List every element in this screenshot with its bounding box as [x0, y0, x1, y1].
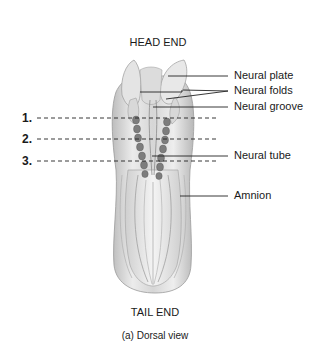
section-number-3: 3. [22, 155, 32, 167]
tail-end-label: TAIL END [131, 307, 179, 318]
neural-plate [140, 67, 162, 105]
label-neural-tube: Neural tube [234, 150, 291, 161]
label-neural-folds: Neural folds [234, 85, 293, 96]
section-number-1: 1. [22, 112, 32, 124]
figure-caption: (a) Dorsal view [122, 331, 189, 341]
section-number-2: 2. [22, 133, 32, 145]
label-neural-groove: Neural groove [234, 101, 303, 112]
label-amnion: Amnion [234, 190, 271, 201]
label-neural-plate: Neural plate [234, 70, 293, 81]
